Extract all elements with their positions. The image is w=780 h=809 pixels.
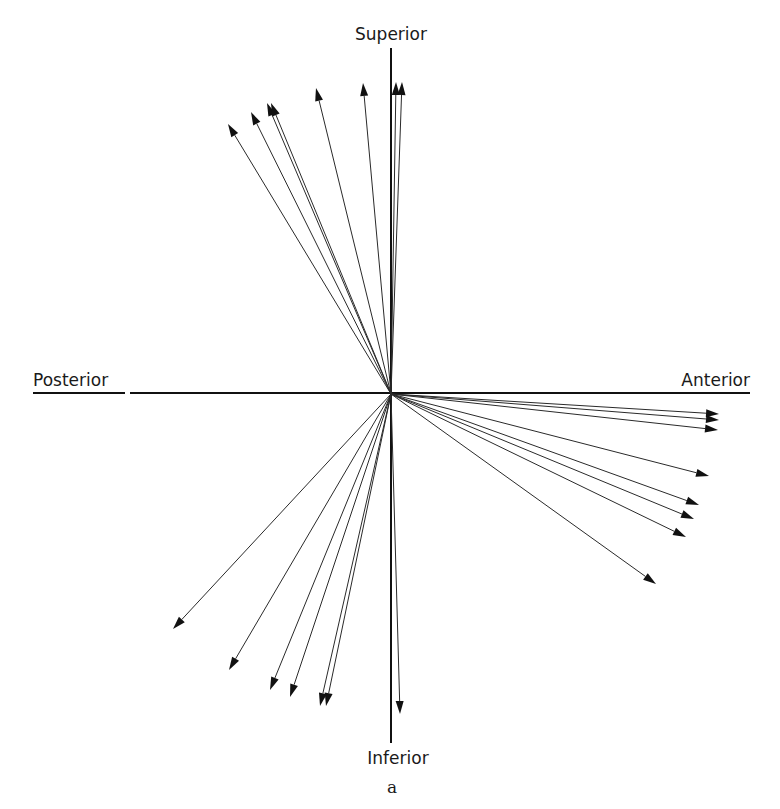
vector-shaft xyxy=(319,101,391,394)
vector-arrow xyxy=(391,394,694,519)
vector-shaft xyxy=(391,394,682,514)
vector-shaft xyxy=(275,394,391,678)
arrowhead-icon xyxy=(673,528,686,537)
vector-arrow xyxy=(251,112,391,394)
anterior-label: Anterior xyxy=(681,370,750,390)
arrowhead-icon xyxy=(705,425,718,433)
vector-shaft xyxy=(364,96,391,394)
vector-arrow xyxy=(325,394,391,706)
vector-shaft xyxy=(235,135,391,394)
posterior-label: Posterior xyxy=(33,370,108,390)
vector-shaft xyxy=(391,394,674,531)
vector-arrow xyxy=(315,88,391,394)
vector-shaft xyxy=(329,394,391,693)
vector-shaft xyxy=(236,394,391,659)
panel-label: a xyxy=(387,777,397,797)
arrowhead-icon xyxy=(643,573,656,584)
vector-shaft xyxy=(391,95,402,394)
vector-arrow xyxy=(173,394,391,629)
arrowhead-icon xyxy=(271,103,280,117)
arrowhead-icon xyxy=(685,497,699,505)
vector-shaft xyxy=(182,394,391,619)
vector-arrow xyxy=(229,394,391,670)
arrowhead-icon xyxy=(315,88,323,102)
vector-arrow xyxy=(267,103,391,394)
vector-shaft xyxy=(323,394,391,693)
vector-shaft xyxy=(391,394,400,701)
arrowhead-icon xyxy=(229,657,239,670)
vector-shaft xyxy=(294,394,391,685)
arrowhead-icon xyxy=(360,83,368,96)
vector-shaft xyxy=(257,124,391,394)
arrowhead-icon xyxy=(396,701,404,714)
vector-shaft xyxy=(391,394,706,413)
vector-shaft xyxy=(391,394,645,576)
vector-arrow xyxy=(319,394,391,706)
inferior-label: Inferior xyxy=(367,748,428,768)
arrowhead-icon xyxy=(680,510,694,519)
vector-arrow xyxy=(391,394,656,584)
vector-arrow xyxy=(228,124,391,394)
vector-arrow xyxy=(270,394,391,690)
vector-arrow xyxy=(391,394,686,537)
vector-arrow xyxy=(391,394,404,714)
arrowhead-icon xyxy=(325,692,333,706)
arrowhead-icon xyxy=(695,469,709,477)
vector-shaft xyxy=(272,115,391,394)
vector-arrow xyxy=(391,394,719,423)
arrowhead-icon xyxy=(706,415,719,423)
vector-shaft xyxy=(276,115,391,394)
vector-arrow xyxy=(391,394,718,433)
arrowhead-icon xyxy=(270,676,279,690)
vector-arrow xyxy=(271,103,391,394)
vector-arrow xyxy=(360,83,391,394)
arrowhead-icon xyxy=(290,683,298,697)
arrowhead-icon xyxy=(251,112,260,125)
vector-arrow xyxy=(290,394,391,697)
arrowhead-icon xyxy=(228,124,238,137)
vector-diagram: Superior Inferior Posterior Anterior a xyxy=(0,0,780,809)
superior-label: Superior xyxy=(355,24,427,44)
arrowhead-icon xyxy=(398,82,406,95)
vector-arrows xyxy=(173,82,719,714)
